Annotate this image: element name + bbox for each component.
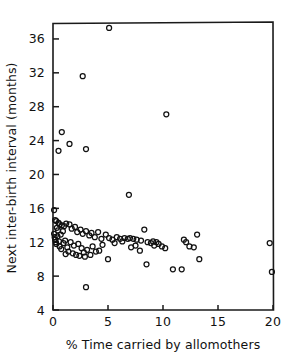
data-point [90, 244, 95, 249]
x-axis-tick-labels: 05101520 [49, 314, 281, 329]
data-point [80, 74, 85, 79]
x-tick-label-10: 10 [155, 314, 171, 329]
y-tick-label-16: 16 [29, 201, 45, 216]
data-point [99, 236, 104, 241]
data-point [96, 230, 101, 235]
data-point [97, 248, 102, 253]
data-point [100, 242, 105, 247]
data-point [170, 267, 175, 272]
chart-canvas: 05101520 4812162024283236 % Time carried… [0, 0, 290, 362]
data-point [84, 147, 89, 152]
y-axis-ticks [53, 39, 59, 310]
data-point [88, 252, 93, 257]
y-tick-label-12: 12 [29, 235, 45, 250]
y-tick-label-8: 8 [37, 269, 45, 284]
y-tick-label-28: 28 [29, 99, 45, 114]
data-point [179, 267, 184, 272]
data-point [164, 112, 169, 117]
data-point [144, 262, 149, 267]
data-point [126, 192, 131, 197]
y-tick-label-20: 20 [29, 167, 45, 182]
y-axis-title: Next inter-birth interval (months) [4, 62, 19, 273]
x-tick-label-15: 15 [210, 314, 226, 329]
x-axis-title: % Time carried by allomothers [66, 337, 261, 352]
y-tick-label-4: 4 [37, 303, 45, 318]
data-point [197, 257, 202, 262]
data-point [142, 227, 147, 232]
data-point [133, 243, 138, 248]
data-point [67, 141, 72, 146]
data-point [267, 241, 272, 246]
data-point [56, 148, 61, 153]
axes-frame [53, 22, 274, 310]
scatter-plot-figure: 05101520 4812162024283236 % Time carried… [0, 0, 290, 362]
plot-frame [53, 22, 274, 310]
data-point [195, 232, 200, 237]
data-point-group [52, 25, 275, 289]
data-point [106, 257, 111, 262]
x-tick-label-0: 0 [49, 314, 57, 329]
data-point [84, 285, 89, 290]
y-axis-tick-labels: 4812162024283236 [29, 31, 45, 317]
y-tick-label-36: 36 [29, 31, 45, 46]
x-tick-label-20: 20 [265, 314, 281, 329]
y-tick-label-32: 32 [29, 65, 45, 80]
y-tick-label-24: 24 [29, 133, 45, 148]
x-tick-label-5: 5 [104, 314, 112, 329]
data-point [137, 248, 142, 253]
data-point [107, 25, 112, 30]
data-point [59, 130, 64, 135]
data-point [92, 235, 97, 240]
